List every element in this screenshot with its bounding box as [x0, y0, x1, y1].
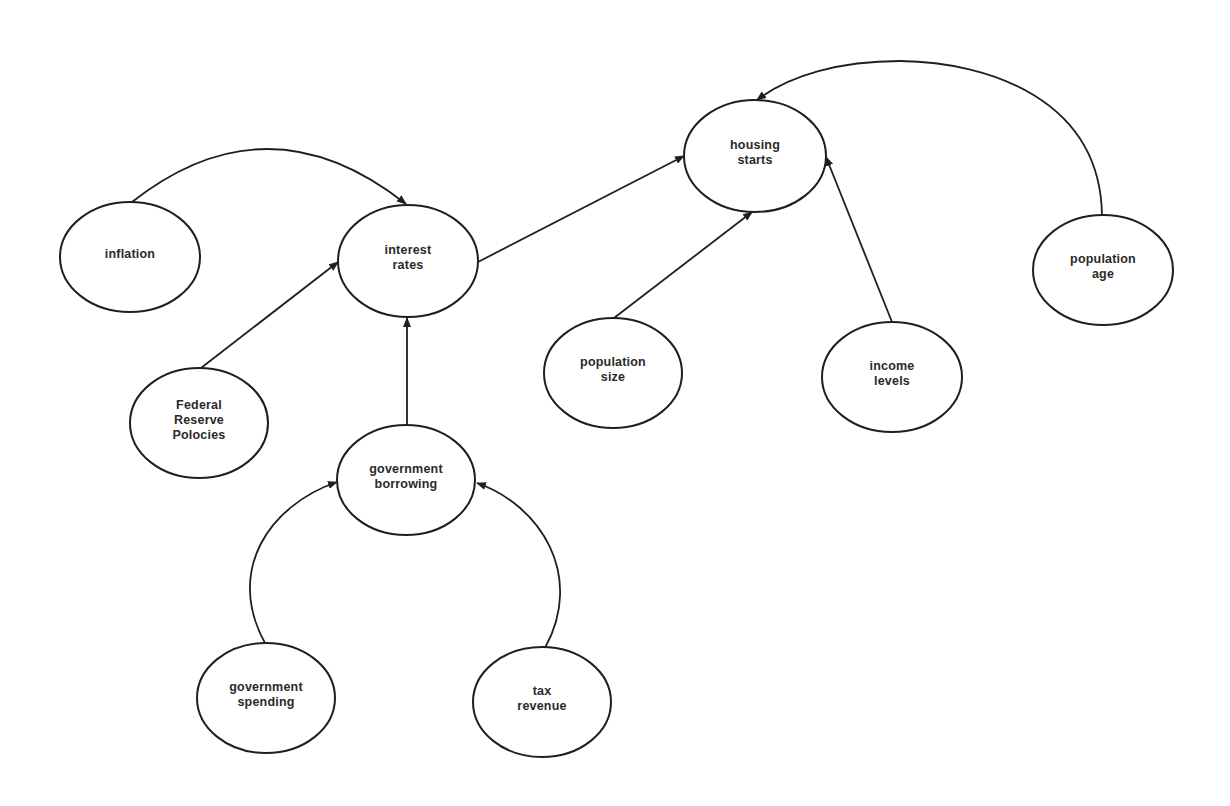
node-inflation	[60, 202, 200, 312]
node-income-levels	[822, 322, 962, 432]
node-population-size	[544, 318, 682, 428]
edge-tax-revenue-to-government-borrowing	[477, 483, 560, 648]
node-government-borrowing	[337, 425, 475, 535]
node-tax-revenue	[473, 647, 611, 757]
node-population-age	[1033, 215, 1173, 325]
node-interest-rates	[338, 205, 478, 317]
edge-federal-reserve-policies-to-interest-rates	[201, 262, 338, 368]
node-housing-starts	[684, 100, 826, 212]
edge-income-levels-to-housing-starts	[826, 157, 892, 322]
node-federal-reserve-policies	[130, 368, 268, 478]
nodes-layer	[60, 100, 1173, 757]
edge-population-size-to-housing-starts	[614, 212, 752, 318]
edge-interest-rates-to-housing-starts	[478, 156, 684, 262]
concept-map-canvas	[0, 0, 1230, 806]
edge-inflation-to-interest-rates	[132, 149, 406, 204]
node-government-spending	[197, 643, 335, 753]
edge-government-spending-to-government-borrowing	[250, 482, 337, 643]
